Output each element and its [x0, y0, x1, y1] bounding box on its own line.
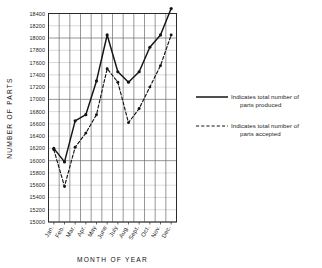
data-point	[74, 119, 77, 122]
legend: Indicates total number of parts produced…	[196, 93, 299, 137]
x-tick-label: July	[108, 225, 119, 238]
chart-container: 1500015200154001560015800160001620016400…	[0, 0, 322, 268]
data-point	[116, 81, 119, 84]
data-point	[106, 33, 109, 36]
legend-label-accepted-line1: Indicates total number of	[231, 122, 299, 129]
y-tick-label: 15400	[30, 194, 46, 200]
data-point	[138, 70, 141, 73]
y-tick-label: 15000	[30, 219, 46, 225]
legend-label-produced-line2: parts produced	[240, 101, 281, 108]
data-point	[116, 70, 119, 73]
y-tick-label: 16000	[30, 158, 46, 164]
data-point	[106, 67, 109, 70]
y-tick-label: 15800	[30, 170, 46, 176]
data-point	[127, 81, 130, 84]
x-axis-tick-labels: Jan.Feb.Mar.Apr.MayJuneJulyAug.Sept.Oct.…	[44, 224, 172, 240]
y-tick-label: 16800	[30, 109, 46, 115]
data-point	[159, 64, 162, 67]
legend-label-accepted-line2: parts accepted	[240, 130, 281, 137]
x-axis-title: MONTH OF YEAR	[77, 256, 148, 263]
data-point	[170, 7, 173, 10]
legend-label-produced-line1: Indicates total number of	[231, 93, 299, 100]
data-point	[52, 148, 55, 151]
data-point	[84, 132, 87, 135]
y-tick-label: 18000	[30, 35, 46, 41]
y-tick-label: 17600	[30, 60, 46, 66]
y-tick-label: 15200	[30, 207, 46, 213]
y-tick-label: 16600	[30, 121, 46, 127]
x-tick-label: Apr.	[76, 225, 87, 238]
data-point	[95, 79, 98, 82]
data-point	[84, 113, 87, 116]
data-point	[127, 121, 130, 124]
y-tick-label: 16400	[30, 133, 46, 139]
y-tick-label: 16200	[30, 145, 46, 151]
legend-item-parts-accepted: Indicates total number of parts accepted	[196, 122, 299, 137]
data-point	[95, 113, 98, 116]
line-chart: 1500015200154001560015800160001620016400…	[0, 0, 322, 268]
y-tick-label: 17400	[30, 72, 46, 78]
data-point	[74, 146, 77, 149]
x-tick-label: Dec.	[161, 225, 173, 240]
y-axis-title: NUMBER OF PARTS	[6, 77, 13, 159]
data-point	[138, 107, 141, 110]
data-point	[148, 86, 151, 89]
y-tick-label: 18400	[30, 11, 46, 17]
y-tick-label: 17800	[30, 47, 46, 53]
data-point	[170, 34, 173, 37]
vertical-gridlines	[49, 14, 177, 223]
x-tick-label: Sept.	[128, 225, 140, 241]
y-tick-label: 17000	[30, 96, 46, 102]
y-tick-label: 17200	[30, 84, 46, 90]
y-tick-label: 15600	[30, 182, 46, 188]
data-point	[63, 185, 66, 188]
data-point	[148, 46, 151, 49]
y-axis-tick-labels: 1500015200154001560015800160001620016400…	[30, 11, 46, 226]
x-tick-label: Mar.	[65, 225, 76, 239]
legend-item-parts-produced: Indicates total number of parts produced	[196, 93, 299, 108]
data-point	[159, 33, 162, 36]
y-tick-label: 18200	[30, 23, 46, 29]
x-tick-label: Feb.	[54, 225, 65, 239]
data-point	[63, 160, 66, 163]
x-tick-label: June	[96, 224, 108, 239]
